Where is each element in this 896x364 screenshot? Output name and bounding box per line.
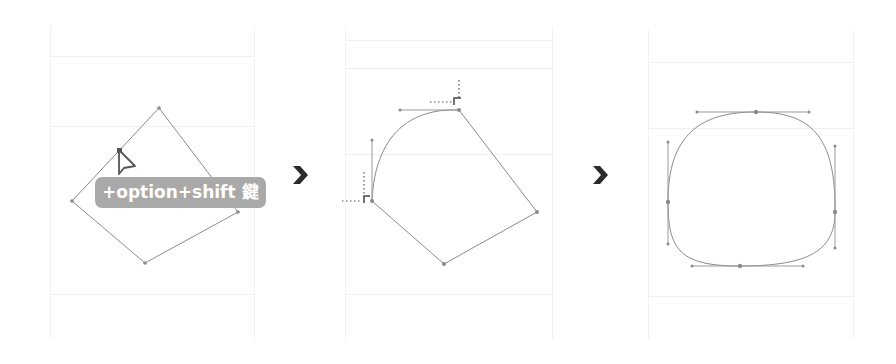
step-3-rounded-shape: [0, 0, 896, 364]
